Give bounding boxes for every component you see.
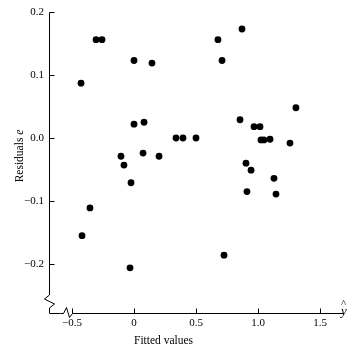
x-axis-symbol: ^ y <box>341 303 347 319</box>
y-axis-label: Residuals e <box>13 101 25 211</box>
x-axis-label: Fitted values <box>134 334 193 346</box>
residual-scatter-plot: Residuals e Fitted values ^ y <box>0 0 362 357</box>
y-axis-label-text: Residuals e <box>13 130 25 183</box>
y-hat-accent: ^ <box>341 297 346 309</box>
plot-canvas <box>0 0 362 357</box>
